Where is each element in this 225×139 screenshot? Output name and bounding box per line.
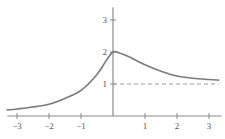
x-tick-label: 2 xyxy=(175,121,180,131)
y-tick-label: 1 xyxy=(103,79,108,89)
y-tick-label: 2 xyxy=(103,47,108,57)
x-tick-label: 1 xyxy=(143,121,148,131)
x-tick-label: −1 xyxy=(76,121,86,131)
x-tick-label: −2 xyxy=(44,121,54,131)
x-tick-label: −3 xyxy=(12,121,22,131)
axes xyxy=(7,7,221,116)
x-tick-label: 3 xyxy=(207,121,212,131)
y-tick-label: 3 xyxy=(103,15,108,25)
line-chart: −3−2−1123 123 xyxy=(0,0,225,139)
